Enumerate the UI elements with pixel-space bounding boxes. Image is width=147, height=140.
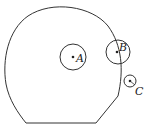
point-a-dot [72, 56, 75, 59]
point-c-group: C [124, 75, 144, 98]
point-a-group: A [60, 44, 86, 70]
point-b-dot [116, 51, 119, 54]
label-c: C [135, 85, 144, 98]
label-b: B [118, 41, 127, 54]
point-b-group: B [106, 40, 130, 64]
label-a: A [75, 52, 84, 65]
diagram-canvas: A B C [0, 0, 147, 140]
